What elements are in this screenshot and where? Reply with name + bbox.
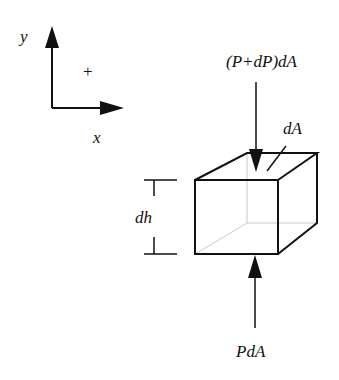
control-volume-diagram: y x + (P+dP)dA dA PdA dh <box>0 0 339 380</box>
height-label: dh <box>135 208 152 227</box>
y-arrowhead-icon <box>45 26 59 48</box>
cube-right-face <box>278 153 317 254</box>
area-annotation: dA <box>267 119 303 171</box>
coordinate-axes: y x + <box>18 26 124 147</box>
height-dimension: dh <box>135 180 177 254</box>
area-label: dA <box>283 119 303 138</box>
bottom-force-arrow: PdA <box>235 255 266 361</box>
area-leader-line <box>267 146 286 171</box>
down-arrowhead-icon <box>249 149 263 172</box>
up-arrowhead-icon <box>248 255 262 278</box>
positive-direction-sign: + <box>83 62 93 81</box>
y-axis-label: y <box>18 27 28 46</box>
bottom-force-label: PdA <box>235 342 266 361</box>
x-arrowhead-icon <box>100 101 124 115</box>
x-axis-label: x <box>92 128 101 147</box>
top-force-label: (P+dP)dA <box>226 52 298 71</box>
cube-front-face <box>195 180 278 254</box>
hidden-edge-diagonal <box>195 223 247 254</box>
